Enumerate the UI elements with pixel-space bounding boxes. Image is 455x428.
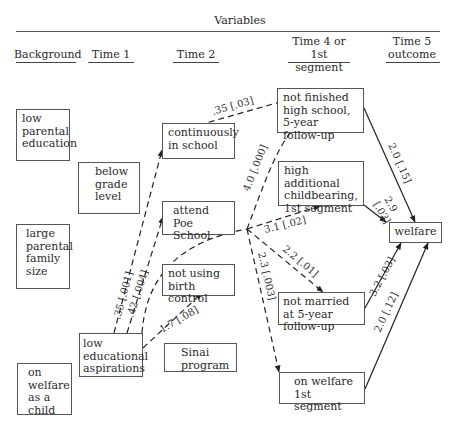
node-large-parental-family-size: large parental family size (16, 224, 70, 289)
node-below-grade-level: below grade level (78, 162, 140, 214)
label-aspirations-nfhs: 4.0 [.000] (241, 143, 270, 193)
label-branch-notmarried: 2.2 [.01] (281, 243, 321, 279)
label-aspirations-birthcontrol: 1.7 [.08] (158, 304, 201, 335)
label-continuously-nfhs: .35 [.03] (211, 95, 255, 117)
node-not-married: not married at 5-year follow-up (278, 292, 365, 325)
label-notmarried-welfare: 3.2 [.03] (367, 255, 397, 298)
node-on-welfare-1st-segment: on welfare 1st segment (279, 372, 365, 404)
node-continuously-in-school: continuously in school (162, 123, 235, 159)
node-welfare: welfare (389, 222, 442, 243)
node-low-educational-aspirations: low educational aspirations (79, 333, 143, 377)
label-branch-childbearing: 3.1 [.02] (263, 214, 307, 235)
node-not-finished-high-school: not finished high school, 5-year follow-… (277, 88, 364, 133)
node-sinai-program: Sinai program (164, 343, 237, 372)
edge-branch-to-onwelfare (247, 229, 279, 372)
label-nfhs-welfare: 2.0 [.15] (386, 141, 413, 185)
node-high-additional-childbearing: high additional childbearing, 1st segmen… (278, 161, 364, 206)
node-on-welfare-as-child: on welfare as a child (17, 363, 72, 415)
node-low-parental-education: low parental education (16, 109, 70, 161)
node-not-using-birth-control: not using birth control (162, 264, 235, 296)
label-branch-onwelfare: 2.3 [.003] (256, 251, 278, 301)
edge-onwelfare-to-welfare (365, 243, 428, 389)
node-attend-poe-school: attend Poe School (162, 201, 235, 235)
